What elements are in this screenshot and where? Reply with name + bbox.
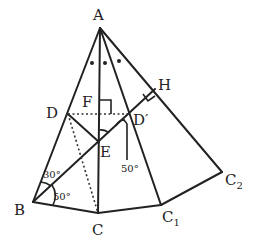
label-D: D (46, 104, 58, 122)
angle-label-50-Dp: 50° (121, 163, 139, 174)
segment-AC1 (100, 28, 161, 205)
label-Dp: D′ (133, 111, 149, 129)
segment-CC1 (98, 205, 161, 213)
label-E: E (100, 143, 111, 161)
angle-dot-2 (103, 61, 107, 65)
angle-label-30: 30° (43, 169, 61, 180)
angle-dot-3 (117, 59, 121, 63)
segment-AC2 (100, 28, 222, 172)
right-angle-F (100, 100, 111, 114)
segment-C1C2 (161, 172, 222, 205)
arc-E (99, 130, 109, 133)
angle-label-50-B: 50° (53, 191, 71, 202)
segment-BC (33, 202, 98, 213)
label-B: B (14, 201, 25, 219)
segment-AC (98, 28, 100, 213)
label-F: F (82, 93, 92, 111)
arc-30 (41, 182, 51, 186)
label-C2: C2 (225, 171, 243, 191)
label-C1: C1 (162, 208, 180, 228)
label-A: A (92, 6, 104, 24)
label-C: C (92, 221, 103, 239)
label-H: H (158, 76, 171, 94)
geometry-diagram: A B C C1 C2 D D′ E F H 30° 50° 50° (0, 0, 259, 246)
arrow-50-pointer (120, 120, 127, 160)
angle-dot-1 (90, 61, 94, 65)
